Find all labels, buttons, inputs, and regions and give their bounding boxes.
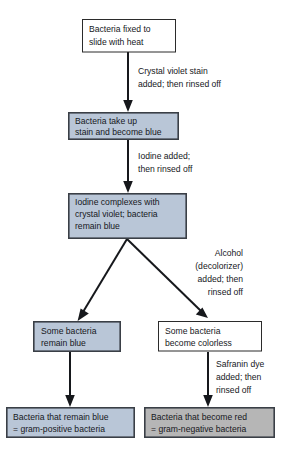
node-gram-positive: Bacteria that remain blue = gram-positiv… bbox=[7, 408, 134, 437]
connector-iodine-to-colorless bbox=[127, 239, 208, 318]
node-iodine-complexes: Iodine complexes with crystal violet; ba… bbox=[69, 194, 186, 238]
edge-label-safranin-dye: Safranin dye added; then rinsed off bbox=[216, 359, 264, 395]
node-become-colorless-line-2: become colorless bbox=[165, 338, 232, 348]
edge-label-crystal-violet: Crystal violet stain added; then rinsed … bbox=[138, 66, 222, 89]
node-bacteria-fixed-line-1: Bacteria fixed to bbox=[89, 24, 151, 34]
node-take-up-stain-line-1: Bacteria take up bbox=[75, 116, 137, 126]
edge-label-iodine-added: Iodine added; then rinsed off bbox=[138, 151, 193, 174]
edge-label-crystal-violet-line-1: Crystal violet stain bbox=[138, 66, 208, 76]
edge-label-alcohol-line-3: added; then bbox=[198, 274, 244, 284]
node-iodine-complexes-line-3: remain blue bbox=[75, 221, 120, 231]
node-gram-negative-line-1: Bacteria that become red bbox=[151, 412, 247, 422]
node-gram-negative: Bacteria that become red = gram-negative… bbox=[145, 408, 274, 437]
edge-label-alcohol-line-1: Alcohol bbox=[215, 248, 243, 258]
node-bacteria-fixed: Bacteria fixed to slide with heat bbox=[83, 20, 176, 53]
edge-label-safranin-line-1: Safranin dye bbox=[216, 359, 264, 369]
node-remain-blue: Some bacteria remain blue bbox=[34, 322, 120, 351]
edge-label-safranin-line-3: rinsed off bbox=[216, 385, 252, 395]
edge-label-crystal-violet-line-2: added; then rinsed off bbox=[138, 79, 222, 89]
node-become-colorless: Some bacteria become colorless bbox=[159, 322, 262, 352]
connector-fixed-to-takeup bbox=[123, 52, 133, 112]
node-gram-positive-line-1: Bacteria that remain blue bbox=[13, 412, 109, 422]
node-take-up-stain: Bacteria take up stain and become blue bbox=[69, 113, 178, 139]
edge-label-safranin-line-2: added; then bbox=[216, 372, 262, 382]
node-gram-negative-line-2: = gram-negative bacteria bbox=[151, 424, 247, 434]
edge-label-alcohol-line-4: rinsed off bbox=[208, 287, 244, 297]
node-remain-blue-line-2: remain blue bbox=[41, 338, 86, 348]
node-iodine-complexes-line-2: crystal violet; bacteria bbox=[75, 209, 158, 219]
node-bacteria-fixed-line-2: slide with heat bbox=[89, 37, 144, 47]
gram-stain-flowchart: Bacteria fixed to slide with heat Crysta… bbox=[0, 0, 284, 460]
connector-colorless-to-gramnegative bbox=[203, 352, 213, 407]
node-iodine-complexes-line-1: Iodine complexes with bbox=[75, 197, 160, 207]
node-take-up-stain-line-2: stain and become blue bbox=[75, 127, 162, 137]
node-gram-positive-line-2: = gram-positive bacteria bbox=[13, 424, 105, 434]
edge-label-iodine-added-line-1: Iodine added; bbox=[138, 151, 190, 161]
connector-takeup-to-iodine bbox=[123, 139, 133, 193]
edge-label-iodine-added-line-2: then rinsed off bbox=[138, 164, 193, 174]
connector-iodine-to-remainblue bbox=[78, 239, 127, 321]
edge-label-alcohol-line-2: (decolorizer) bbox=[195, 261, 243, 271]
node-become-colorless-line-1: Some bacteria bbox=[165, 326, 221, 336]
node-remain-blue-line-1: Some bacteria bbox=[41, 326, 97, 336]
connector-remainblue-to-grampositive bbox=[65, 352, 75, 407]
edge-label-alcohol-decolorizer: Alcohol (decolorizer) added; then rinsed… bbox=[195, 248, 243, 297]
